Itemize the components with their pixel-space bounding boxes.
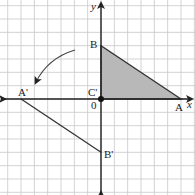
label-A-prime: A' — [18, 86, 28, 98]
coordinate-plane: B A x y C' 0 A' B' — [0, 0, 195, 195]
label-origin: 0 — [91, 99, 97, 111]
label-C-prime: C' — [88, 86, 97, 98]
label-B-prime: B' — [104, 148, 113, 160]
label-x-axis: x — [186, 98, 192, 110]
label-A: A — [175, 101, 183, 113]
origin-point — [98, 96, 104, 102]
rotation-arrow-icon — [36, 50, 75, 82]
label-B: B — [90, 38, 97, 50]
label-y-axis: y — [90, 0, 96, 12]
coordinate-diagram: B A x y C' 0 A' B' — [0, 0, 195, 195]
